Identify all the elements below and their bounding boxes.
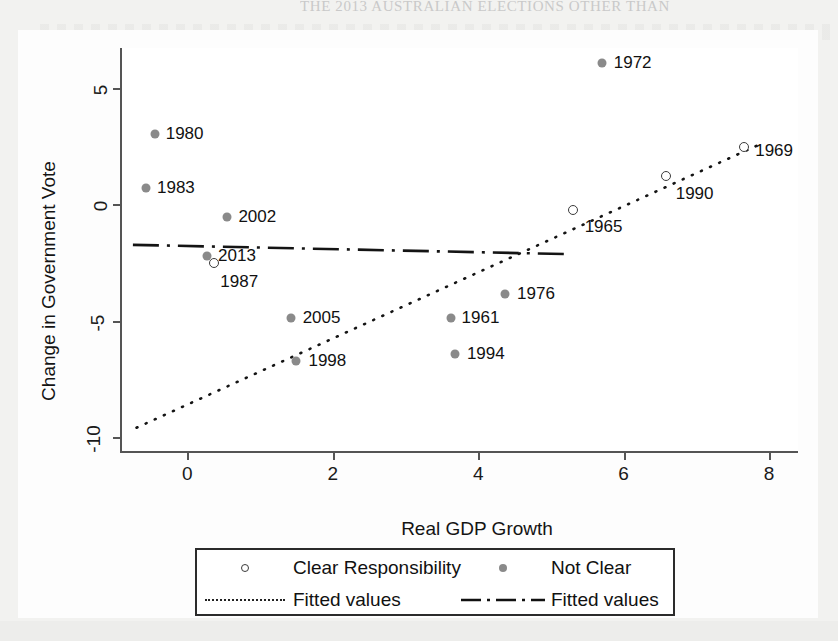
x-tick-label: 2 (327, 463, 338, 485)
x-axis-title: Real GDP Growth (138, 518, 816, 540)
plot-area: 1987196519901969198019832002201319721976… (122, 48, 798, 451)
legend-row-lines: Fitted values Fitted values (197, 583, 673, 617)
x-tick-label: 4 (473, 463, 484, 485)
legend-row-markers: Clear Responsibility Not Clear (197, 551, 673, 585)
data-point (286, 313, 295, 322)
y-tick: -10 (113, 437, 122, 439)
data-point-label: 1965 (585, 217, 623, 237)
fitted-line-dash-dot (133, 245, 569, 254)
data-point (203, 252, 212, 261)
data-point (501, 289, 510, 298)
data-point-label: 1961 (462, 308, 500, 328)
y-axis-title-text: Change in Government Vote (38, 161, 60, 401)
legend-entry-fitted-dotted: Fitted values (197, 589, 455, 611)
filled-circle-icon (455, 564, 551, 572)
y-tick-label: 5 (91, 84, 113, 95)
y-axis-title: Change in Government Vote (36, 78, 62, 483)
legend-label-not-clear: Not Clear (551, 557, 631, 579)
data-point-label: 1987 (220, 272, 258, 292)
x-tick-label: 8 (764, 463, 775, 485)
figure-canvas: Change in Government Vote 19871965199019… (18, 30, 818, 618)
legend-entry-not-clear: Not Clear (455, 557, 631, 579)
legend-label-clear-responsibility: Clear Responsibility (293, 557, 461, 579)
data-point-label: 2013 (218, 246, 256, 266)
x-tick (478, 451, 480, 460)
legend-entry-clear-responsibility: Clear Responsibility (197, 557, 455, 579)
y-tick: -5 (113, 321, 122, 323)
x-tick (333, 451, 335, 460)
data-point-label: 1994 (467, 344, 505, 364)
data-point (568, 205, 578, 215)
x-tick (187, 451, 189, 460)
chart-legend: Clear Responsibility Not Clear Fitted va… (195, 548, 675, 616)
y-tick: 0 (113, 204, 122, 206)
data-point (739, 142, 749, 152)
open-circle-icon (197, 564, 293, 572)
y-tick-label: -5 (88, 314, 110, 331)
data-point-label: 1983 (157, 178, 195, 198)
plot-frame: 1987196519901969198019832002201319721976… (120, 48, 798, 453)
data-point (150, 130, 159, 139)
data-point-label: 2002 (238, 207, 276, 227)
x-tick (769, 451, 771, 460)
data-point-label: 1972 (614, 53, 652, 73)
legend-label-fitted-dotted: Fitted values (293, 589, 401, 611)
x-tick (624, 451, 626, 460)
legend-entry-fitted-dashdot: Fitted values (455, 589, 659, 611)
data-point (223, 212, 232, 221)
data-point-label: 1969 (755, 141, 793, 161)
x-tick-label: 6 (618, 463, 629, 485)
dotted-line-icon (197, 599, 293, 601)
data-point-label: 2005 (303, 308, 341, 328)
data-point (141, 183, 150, 192)
scan-bottom-margin (0, 621, 838, 641)
data-point (597, 59, 606, 68)
dashdot-line-icon (455, 597, 551, 603)
x-tick-label: 0 (182, 463, 193, 485)
data-point-label: 1976 (517, 284, 555, 304)
y-tick-label: 0 (91, 201, 113, 212)
data-point (450, 350, 459, 359)
scanned-page-background: THE 2013 AUSTRALIAN ELECTIONS OTHER THAN… (0, 0, 838, 641)
data-point-label: 1998 (308, 351, 346, 371)
data-point-label: 1990 (676, 184, 714, 204)
data-point (661, 171, 671, 181)
bleed-through-header-text: THE 2013 AUSTRALIAN ELECTIONS OTHER THAN (300, 0, 838, 15)
data-point-label: 1980 (166, 124, 204, 144)
data-point (446, 314, 455, 323)
y-tick: 5 (113, 88, 122, 90)
legend-label-fitted-dashdot: Fitted values (551, 589, 659, 611)
data-point (292, 357, 301, 366)
y-tick-label: -10 (82, 425, 104, 452)
